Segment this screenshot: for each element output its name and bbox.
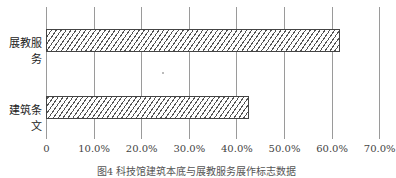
bar: [46, 96, 249, 119]
x-tick-label: 10.0%: [78, 143, 110, 154]
gridline: [332, 7, 333, 139]
bar: [46, 29, 340, 52]
gridline: [379, 7, 380, 139]
gridline: [236, 7, 237, 139]
gridline: [189, 7, 190, 139]
gridline: [284, 7, 285, 139]
figure-caption: 图4 科技馆建筑本底与展教服务展作标志数据: [0, 163, 393, 178]
stray-dot: [162, 72, 164, 74]
category-label: 建筑条文: [0, 101, 42, 133]
x-tick-label: 20.0%: [126, 143, 158, 154]
x-tick-label: 0: [43, 143, 49, 154]
category-label: 展教服务: [0, 34, 42, 66]
x-tick-label: 50.0%: [269, 143, 301, 154]
gridline: [94, 7, 95, 139]
x-tick-label: 60.0%: [316, 143, 348, 154]
gridline: [141, 7, 142, 139]
x-tick-label: 30.0%: [173, 143, 205, 154]
x-tick-label: 40.0%: [221, 143, 253, 154]
gridline: [46, 7, 47, 139]
x-tick-label: 70.0%: [364, 143, 396, 154]
